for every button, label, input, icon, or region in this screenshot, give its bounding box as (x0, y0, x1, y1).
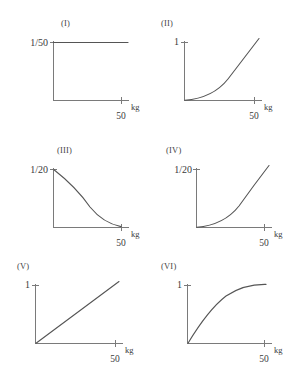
curve-2 (185, 39, 259, 101)
plot-panel-1: (I) 1/50 kg 50 (0, 0, 152, 126)
curve-3 (54, 170, 121, 227)
curve-5 (36, 282, 119, 344)
curve-4 (197, 166, 269, 228)
plot-panel-3: (III) 1/20 kg 50 (0, 127, 152, 253)
figure-canvas: (I) 1/50 kg 50 (II) 1 kg 50 (0, 0, 304, 380)
plot-svg-2 (152, 0, 304, 126)
plot-svg-6 (152, 254, 304, 380)
plot-panel-6: (VI) 1 kg 50 (152, 254, 304, 380)
plot-panel-2: (II) 1 kg 50 (152, 0, 304, 126)
plot-panel-5: (V) 1 kg 50 (0, 254, 152, 380)
plot-panel-4: (IV) 1/20 kg 50 (152, 127, 304, 253)
curve-6 (188, 284, 266, 343)
plot-svg-3 (0, 127, 152, 253)
plot-svg-1 (0, 0, 152, 126)
plot-svg-4 (152, 127, 304, 253)
plot-svg-5 (0, 254, 152, 380)
